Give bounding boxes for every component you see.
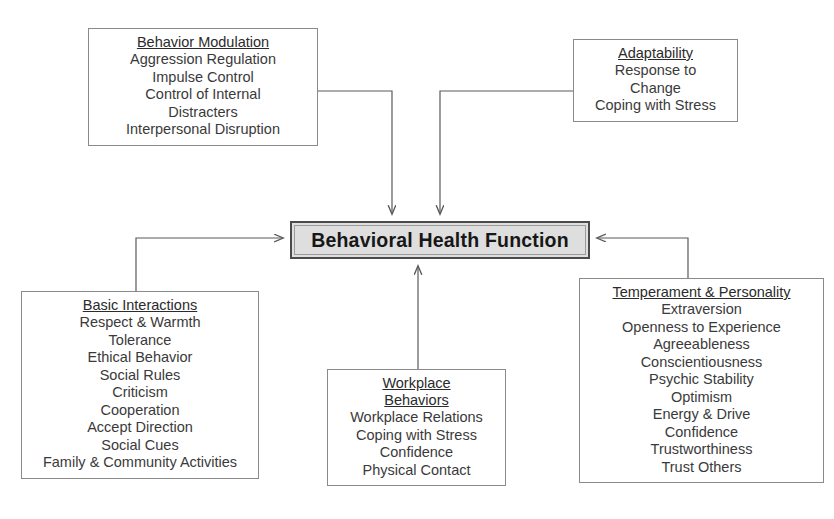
- node-item: Tolerance: [28, 332, 252, 350]
- node-title: Temperament & Personality: [586, 284, 817, 301]
- node-item: Family & Community Activities: [28, 454, 252, 472]
- node-behavior-modulation: Behavior Modulation Aggression Regulatio…: [88, 28, 318, 146]
- node-item: Aggression Regulation: [95, 51, 311, 69]
- connector-temperament-personality-to-center: [597, 238, 688, 278]
- node-item: Conscientiousness: [586, 354, 817, 372]
- connector-adaptability-to-center: [440, 91, 573, 214]
- node-item: Energy & Drive: [586, 406, 817, 424]
- node-workplace-behaviors: Workplace Behaviors Workplace Relations …: [327, 369, 506, 486]
- node-title-line2: Behaviors: [334, 392, 499, 409]
- node-item: Physical Contact: [334, 462, 499, 480]
- node-basic-interactions: Basic Interactions Respect & Warmth Tole…: [21, 291, 259, 479]
- connector-basic-interactions-to-center: [136, 238, 283, 291]
- node-item: Change: [580, 80, 731, 98]
- center-node-behavioral-health-function: Behavioral Health Function: [290, 221, 590, 259]
- node-item: Optimism: [586, 389, 817, 407]
- node-item: Social Rules: [28, 367, 252, 385]
- node-item: Respect & Warmth: [28, 314, 252, 332]
- node-temperament-personality: Temperament & Personality Extraversion O…: [579, 278, 824, 483]
- node-item: Distracters: [95, 104, 311, 122]
- node-title: Adaptability: [580, 45, 731, 62]
- node-item: Cooperation: [28, 402, 252, 420]
- node-item: Control of Internal: [95, 86, 311, 104]
- node-title: Workplace: [334, 375, 499, 392]
- node-item: Social Cues: [28, 437, 252, 455]
- node-title: Behavior Modulation: [95, 34, 311, 51]
- node-item: Psychic Stability: [586, 371, 817, 389]
- node-adaptability: Adaptability Response to Change Coping w…: [573, 39, 738, 122]
- node-item: Trustworthiness: [586, 441, 817, 459]
- node-item: Agreeableness: [586, 336, 817, 354]
- node-item: Interpersonal Disruption: [95, 121, 311, 139]
- node-item: Confidence: [334, 444, 499, 462]
- node-item: Coping with Stress: [334, 427, 499, 445]
- node-item: Workplace Relations: [334, 409, 499, 427]
- node-item: Confidence: [586, 424, 817, 442]
- center-node-label: Behavioral Health Function: [311, 229, 569, 252]
- node-item: Ethical Behavior: [28, 349, 252, 367]
- node-item: Extraversion: [586, 301, 817, 319]
- node-item: Impulse Control: [95, 69, 311, 87]
- node-item: Accept Direction: [28, 419, 252, 437]
- node-item: Openness to Experience: [586, 319, 817, 337]
- node-item: Criticism: [28, 384, 252, 402]
- diagram-canvas: Behavior Modulation Aggression Regulatio…: [0, 0, 834, 519]
- node-item: Trust Others: [586, 459, 817, 477]
- node-item: Response to: [580, 62, 731, 80]
- node-item: Coping with Stress: [580, 97, 731, 115]
- node-title: Basic Interactions: [28, 297, 252, 314]
- connector-behavior-modulation-to-center: [318, 91, 392, 214]
